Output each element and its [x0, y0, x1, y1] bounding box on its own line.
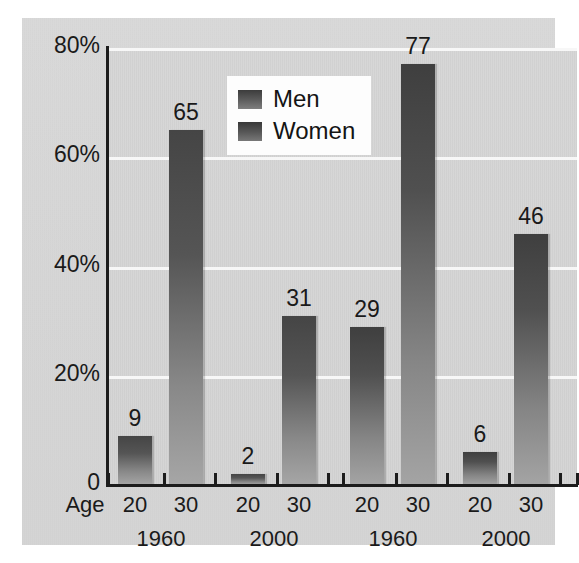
- y-axis-tick-label: 80%: [54, 32, 100, 59]
- x-axis-tick: [107, 473, 110, 485]
- x-axis-year-label: 1960: [137, 526, 186, 552]
- x-axis-age-label: Age: [65, 492, 104, 518]
- bar-value-label: 65: [173, 99, 199, 126]
- bar: 65: [169, 130, 203, 485]
- x-axis-tick: [508, 473, 511, 485]
- bar-value-label: 31: [286, 285, 312, 312]
- y-axis-tick-label: 20%: [54, 360, 100, 387]
- x-axis-tick-label: 20: [468, 492, 492, 518]
- x-axis-year-label: 2000: [250, 526, 299, 552]
- chart-legend: Men Women: [227, 76, 371, 155]
- bar-value-label: 46: [518, 203, 544, 230]
- x-axis-tick-label: 30: [174, 492, 198, 518]
- y-axis-tick-label: 40%: [54, 251, 100, 278]
- x-axis-tick: [327, 473, 330, 485]
- bar: 77: [401, 64, 435, 485]
- y-axis-tick-labels: 020%40%60%80%: [22, 18, 100, 545]
- bar: 29: [350, 327, 384, 485]
- bar-value-label: 2: [242, 443, 255, 470]
- legend-swatch-women-icon: [238, 122, 262, 141]
- x-axis-tick-label: 20: [123, 492, 147, 518]
- top-clipped-text: [0, 0, 573, 16]
- bar: 6: [463, 452, 497, 485]
- legend-swatch-men-icon: [238, 90, 262, 109]
- x-axis-tick-label: 30: [406, 492, 430, 518]
- x-axis-tick: [163, 473, 166, 485]
- bar: 31: [282, 316, 316, 485]
- bar: 46: [514, 234, 548, 485]
- gridline: [107, 48, 577, 51]
- bar-value-label: 29: [354, 296, 380, 323]
- legend-item-women: Women: [238, 116, 355, 146]
- bar-value-label: 9: [129, 405, 142, 432]
- x-axis-tick: [276, 473, 279, 485]
- x-axis-tick: [214, 473, 217, 485]
- x-axis-year-label: 2000: [482, 526, 531, 552]
- legend-label-men: Men: [273, 87, 320, 111]
- x-axis-tick: [342, 473, 345, 485]
- chart-canvas: 9652312977646 020%40%60%80% Men Women Ag…: [22, 18, 555, 545]
- bar-value-label: 6: [474, 421, 487, 448]
- y-axis-line: [106, 46, 109, 487]
- x-axis-tick: [395, 473, 398, 485]
- legend-label-women: Women: [273, 119, 355, 143]
- legend-item-men: Men: [238, 84, 355, 114]
- x-axis-tick-label: 20: [236, 492, 260, 518]
- bar-value-label: 77: [405, 33, 431, 60]
- x-axis-year-label: 1960: [369, 526, 418, 552]
- x-axis-tick: [559, 473, 562, 485]
- x-axis-tick-label: 30: [287, 492, 311, 518]
- x-axis-labels: Age20302030203020301960200019602000: [22, 490, 555, 563]
- y-axis-tick-label: 60%: [54, 141, 100, 168]
- bar: 9: [118, 436, 152, 485]
- x-axis-tick-label: 30: [519, 492, 543, 518]
- x-axis-tick: [446, 473, 449, 485]
- x-axis-tick-label: 20: [355, 492, 379, 518]
